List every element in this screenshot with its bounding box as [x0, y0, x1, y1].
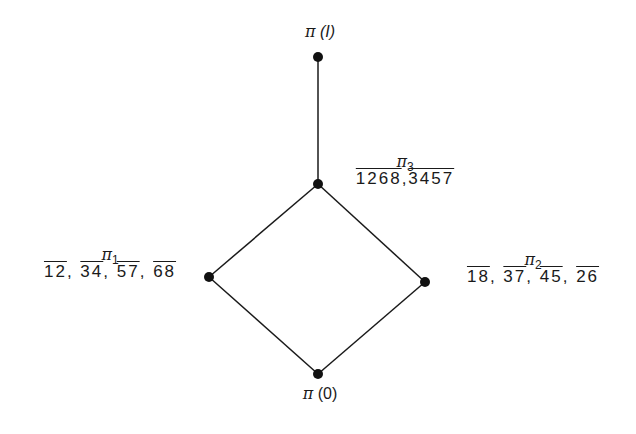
label-arg: (0): [318, 385, 338, 402]
separator: ,: [103, 262, 110, 281]
label-arg: (I): [320, 23, 335, 40]
block: 57: [117, 262, 140, 281]
block: 45: [540, 267, 563, 286]
block: 34: [80, 262, 103, 281]
block: 1268: [356, 169, 402, 188]
partition-pi2: 18, 37, 45, 26: [448, 267, 618, 287]
block: 68: [153, 262, 176, 281]
subscript: 3: [407, 160, 414, 174]
block: 18: [467, 267, 490, 286]
node-pi3: [313, 179, 323, 189]
pi-symbol: π: [305, 22, 316, 41]
label-pi3: π3 1268,3457: [335, 152, 475, 189]
subscript: 1: [112, 253, 119, 267]
label-pi2: π2 18, 37, 45, 26: [448, 250, 618, 287]
pi-symbol: π: [303, 384, 314, 403]
block: 12: [44, 262, 67, 281]
label-top: π (I): [290, 22, 350, 41]
subscript: 2: [535, 258, 542, 272]
label-pi1: π1 12, 34, 57, 68: [30, 245, 190, 282]
node-pi2: [420, 277, 430, 287]
label-bottom: π (0): [290, 384, 350, 403]
node-bottom: [313, 369, 323, 379]
separator: ,: [140, 262, 147, 281]
block: 26: [576, 267, 599, 286]
partition-pi1: 12, 34, 57, 68: [30, 262, 190, 282]
separator: ,: [67, 262, 74, 281]
lattice-diagram: [0, 0, 636, 434]
edge-pi2-bottom: [318, 282, 425, 374]
block: 37: [503, 267, 526, 286]
node-top: [313, 52, 323, 62]
edge-pi3-pi2: [318, 184, 425, 282]
separator: ,: [563, 267, 570, 286]
edge-pi1-bottom: [209, 277, 318, 374]
edge-pi3-pi1: [209, 184, 318, 277]
separator: ,: [526, 267, 533, 286]
partition-pi3: 1268,3457: [335, 169, 475, 189]
separator: ,: [490, 267, 497, 286]
node-pi1: [204, 272, 214, 282]
block: 3457: [408, 169, 454, 188]
